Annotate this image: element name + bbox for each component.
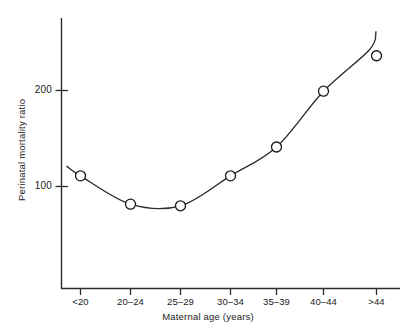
data-point-1 [126,199,136,209]
data-point-3 [226,171,236,181]
data-point-4 [272,142,282,152]
data-point-6 [372,51,382,61]
data-point-2 [176,201,186,211]
y-axis-title: Perinatal mortality ratio [14,80,30,220]
x-tick-marks [81,289,377,296]
data-point-0 [76,171,86,181]
chart-plot-area [0,0,416,334]
data-point-5 [319,86,329,96]
x-axis-title: Maternal age (years) [0,311,416,322]
chart-figure: 200 100 <20 20–24 25–29 30–34 35–39 40–4… [0,0,416,334]
x-tick-label-6: >44 [346,296,407,307]
x-tick-label-5: 40–44 [293,296,354,307]
fitted-curve [67,32,376,209]
data-point-markers [76,51,382,211]
